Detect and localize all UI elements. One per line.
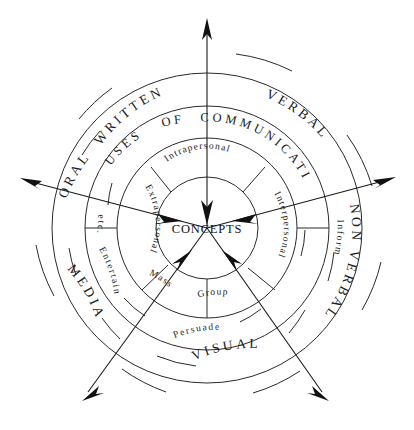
outer-label-oral-text: ORAL — [55, 149, 93, 200]
middle-label-persuade-text: Persuade — [172, 322, 221, 340]
inner-label-intrapersonal: Intrapersonal — [162, 140, 232, 163]
outer-label-oral: ORAL — [55, 149, 93, 200]
inner-label-group: Group — [196, 287, 229, 300]
inner-label-interpersonal: Interpersonal — [272, 190, 291, 260]
outer-label-visual-text: VISUAL — [189, 336, 261, 363]
middle-heading-of-text: OF — [160, 112, 185, 130]
outer-label-media-text: MEDIA — [65, 261, 109, 321]
arrow-head-ll-out — [82, 386, 104, 401]
arrow-head-lr-out — [307, 386, 329, 401]
outer-label-media: MEDIA — [65, 261, 109, 321]
communication-diagram: WRITTEN VERBAL NON VERBAL VISUAL MEDIA O… — [0, 0, 414, 430]
middle-label-inform: Inform — [332, 219, 346, 257]
inner-label-intrapersonal-text: Intrapersonal — [162, 140, 232, 163]
inner-label-extrapersonal-text: Extrapersonal — [143, 183, 163, 256]
middle-label-etc-text: etc. — [95, 215, 106, 236]
middle-label-inform-text: Inform — [332, 219, 346, 257]
diagram-canvas: WRITTEN VERBAL NON VERBAL VISUAL MEDIA O… — [0, 0, 414, 430]
inner-label-group-text: Group — [196, 287, 229, 300]
middle-label-etc: etc. — [95, 215, 106, 236]
inner-label-extrapersonal: Extrapersonal — [143, 183, 163, 256]
inner-label-interpersonal-text: Interpersonal — [272, 190, 291, 260]
middle-heading-of: OF — [160, 112, 185, 130]
middle-label-persuade: Persuade — [172, 322, 221, 340]
center-concepts-label: CONCEPTS — [172, 222, 242, 236]
outer-label-visual: VISUAL — [189, 336, 261, 363]
